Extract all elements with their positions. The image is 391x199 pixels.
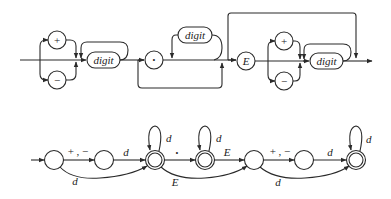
svg-text:d: d: [216, 132, 222, 144]
svg-text:d: d: [327, 146, 333, 158]
svg-text:+: +: [54, 34, 60, 46]
svg-text:E: E: [223, 146, 231, 158]
state-q6: [347, 151, 366, 170]
exponent-digits: digit: [303, 44, 351, 69]
minus-node: −: [48, 71, 66, 89]
svg-text:+: +: [281, 35, 287, 47]
svg-text:+ , −: + , −: [68, 145, 89, 157]
finite-automaton: + , − d • E + , − d d E d d d d: [31, 126, 372, 188]
svg-text:−: −: [281, 75, 287, 87]
syntax-diagram: + − digit • digit: [20, 13, 372, 90]
svg-text:•: •: [176, 149, 179, 158]
svg-text:digit: digit: [93, 54, 114, 66]
svg-text:digit: digit: [185, 29, 206, 41]
plus-node: +: [48, 31, 66, 49]
fraction-part: • digit: [138, 27, 236, 88]
integer-digits: digit: [81, 42, 144, 68]
svg-text:E: E: [171, 176, 179, 188]
state-q1: [95, 151, 114, 170]
loop-q3: [199, 126, 211, 151]
state-q0: [45, 151, 64, 170]
svg-text:•: •: [153, 56, 156, 65]
svg-text:digit: digit: [316, 55, 337, 67]
svg-text:d: d: [275, 176, 281, 188]
svg-text:d: d: [123, 146, 129, 158]
svg-text:d: d: [366, 133, 372, 145]
loop-q6: [350, 126, 362, 151]
decimal-point-node: •: [145, 51, 163, 69]
svg-text:d: d: [166, 132, 172, 144]
state-q2: [146, 151, 165, 170]
loop-q2: [149, 126, 161, 151]
state-q4: [245, 151, 264, 170]
state-q5: [295, 151, 314, 170]
exp-minus-node: −: [275, 72, 293, 90]
number-syntax-figure: + − digit • digit: [0, 0, 391, 199]
svg-text:+ , −: + , −: [270, 145, 291, 157]
exp-plus-node: +: [275, 32, 293, 50]
svg-text:−: −: [54, 74, 60, 86]
exponent-node: E: [237, 52, 255, 70]
svg-text:d: d: [72, 175, 78, 187]
state-q3: [196, 151, 215, 170]
svg-text:E: E: [242, 55, 250, 67]
